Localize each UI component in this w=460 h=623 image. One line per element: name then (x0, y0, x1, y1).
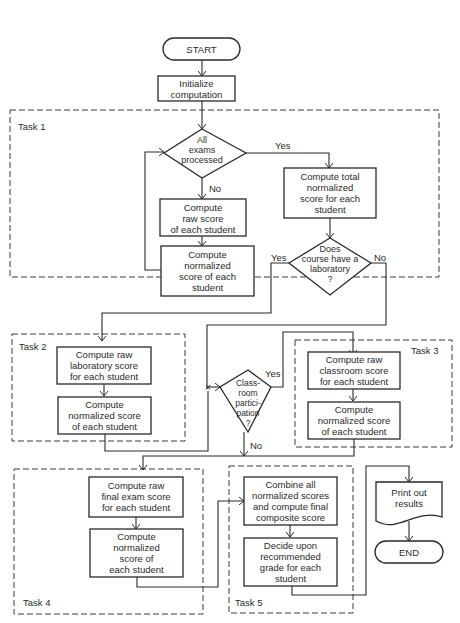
start-label: START (163, 44, 240, 55)
end-label: END (375, 547, 443, 558)
total-normalized-label: Compute total normalized score for each … (284, 171, 376, 215)
normalized-score-label: Compute normalized score of each student (161, 249, 254, 293)
classroom-decision-label: Class- room partici- pation ? (226, 378, 270, 428)
raw-classroom-label: Compute raw classroom score for each stu… (308, 354, 400, 387)
lab-decision-label: Does course have a laboratory ? (294, 244, 366, 284)
task2-label: Task 2 (19, 341, 46, 352)
print-results-label: Print out results (376, 487, 442, 509)
lab-yes-label: Yes (271, 252, 287, 263)
raw-final-exam-label: Compute raw final exam score for each st… (89, 480, 183, 513)
task2-normalized-label: Compute normalized score of each student (58, 399, 151, 432)
all-exams-yes-label: Yes (275, 140, 291, 151)
combine-label: Combine all normalized scores and comput… (244, 479, 337, 523)
task1-label: Task 1 (18, 121, 45, 132)
lab-no-label: No (374, 252, 386, 263)
all-exams-no-label: No (209, 183, 221, 194)
task3-label: Task 3 (411, 345, 438, 356)
task4-label: Task 4 (23, 597, 50, 608)
all-exams-label: All exams processed (172, 135, 232, 165)
raw-lab-label: Compute raw laboratory score for each st… (57, 349, 151, 382)
task3-normalized-label: Compute normalized score of each student (308, 404, 400, 437)
task4-normalized-label: Compute normalized score of each student (90, 531, 183, 575)
task5-label: Task 5 (235, 597, 262, 608)
svg-text:×: × (205, 382, 211, 393)
decide-grade-label: Decide upon recommended grade for each s… (244, 540, 337, 584)
classroom-no-label: No (250, 440, 262, 451)
initialize-label: Initialize computation (158, 78, 235, 100)
raw-score-label: Compute raw score of each student (160, 202, 246, 235)
classroom-yes-label: Yes (265, 368, 281, 379)
